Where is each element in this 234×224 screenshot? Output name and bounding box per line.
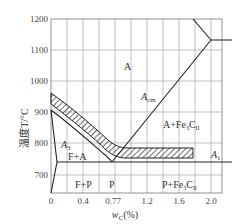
x-axis-ticks: 0 0.4 0.77 1.2 1.6 2.0	[49, 196, 217, 206]
svg-text:0.77: 0.77	[105, 196, 121, 206]
svg-text:900: 900	[35, 107, 49, 117]
svg-text:2.0: 2.0	[205, 196, 217, 206]
label-a-fe3c: A+Fe3CII	[163, 119, 200, 131]
phase-lines	[51, 19, 232, 193]
label-f-p: F+P	[75, 179, 92, 190]
label-acm: Acm	[140, 91, 156, 104]
svg-text:800: 800	[35, 138, 49, 148]
plot-frame	[51, 19, 222, 193]
iron-carbon-phase-diagram: 1200 1100 1000 900 800 700 0 0.4 0.77 1.…	[0, 0, 234, 224]
label-p: P	[109, 179, 115, 190]
y-axis-label: 温度T/°C	[18, 108, 30, 148]
svg-text:700: 700	[35, 170, 49, 180]
grid	[51, 19, 222, 193]
x-axis-label: wC(%)	[112, 209, 138, 222]
svg-text:1100: 1100	[30, 45, 48, 55]
svg-text:1200: 1200	[30, 14, 49, 24]
label-p-fe3c: P+Fe3CII	[162, 179, 197, 191]
svg-text:1.2: 1.2	[141, 196, 152, 206]
svg-text:0: 0	[49, 196, 54, 206]
svg-text:0.4: 0.4	[77, 196, 89, 206]
label-f-a: F+A	[68, 151, 87, 162]
svg-text:1.6: 1.6	[173, 196, 185, 206]
label-austenite: A	[124, 61, 132, 72]
y-axis-ticks: 1200 1100 1000 900 800 700	[30, 14, 49, 180]
svg-text:1000: 1000	[30, 76, 49, 86]
label-a1: A1	[210, 149, 221, 162]
